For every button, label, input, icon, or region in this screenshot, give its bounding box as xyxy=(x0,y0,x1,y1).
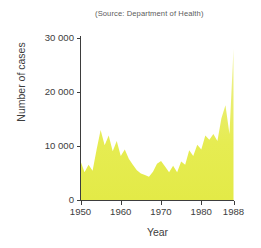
area-series-fill xyxy=(81,49,234,201)
chart-plot-area xyxy=(0,0,261,248)
chart-figure: (Source: Department of Health) Number of… xyxy=(0,0,261,248)
